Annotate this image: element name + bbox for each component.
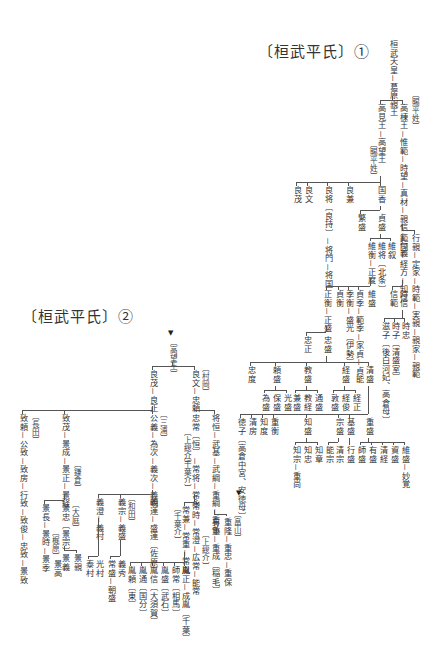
line — [226, 514, 227, 516]
line — [402, 230, 414, 231]
node-kiyomune: 清宗 — [334, 446, 343, 463]
node-yasumori: 保盛 — [271, 394, 280, 411]
line — [98, 518, 99, 556]
line — [76, 550, 77, 553]
line — [110, 556, 111, 559]
section-title-part2: 〔桓武平氏〕② — [22, 305, 134, 326]
node-tokitada: 時忠 — [400, 322, 409, 339]
line — [295, 390, 296, 393]
line — [98, 494, 152, 495]
node-kageyoshi: 景義 — [60, 554, 69, 571]
node-tanemori: 胤盛〔武石〕 — [159, 566, 168, 617]
node-arimori: 有盛 — [367, 446, 376, 463]
node-tanemasa: 胤正－成胤〔千葉〕 — [180, 566, 189, 643]
node-korenori: 維叙 — [386, 242, 395, 259]
node-tomoakira: 知章 — [313, 446, 322, 463]
node-motomori: 基盛 — [345, 418, 354, 435]
node-yoshihide: 義秀 — [116, 560, 125, 577]
node-moromori: 師盛 — [356, 446, 365, 463]
node-koremori-myokaku: 維盛－妙覚 — [400, 446, 409, 489]
line — [295, 442, 296, 445]
line — [264, 390, 265, 393]
line — [250, 362, 368, 363]
line — [264, 390, 286, 391]
node-yoshifumi-tadayori: 良文－忠頼 — [190, 370, 199, 413]
node-kagechika: 景親 — [72, 554, 81, 571]
node-tsunetoshi: 経俊 — [340, 394, 349, 411]
node-kanemori: 兼盛 — [291, 394, 300, 411]
node-yukinori-line: 行親－定家－時範－実親－親家－親範 — [410, 234, 419, 379]
line — [120, 540, 121, 556]
line — [393, 442, 394, 445]
node-suehira: 季衡－盛光〔伊勢〕 — [344, 290, 353, 367]
node-tokuko: 徳子〔高倉中宮、安徳母〕 — [236, 418, 245, 520]
node-yasumura: 泰村 — [84, 560, 93, 577]
node-tadayori-nagata: 致頼－公致－致房－行致－致俊－忠致－景致 — [18, 414, 27, 584]
node-aritsune: 有重－重成〔稲毛〕 — [210, 518, 219, 595]
line — [338, 438, 339, 442]
node-kunika: 国香 — [376, 186, 385, 203]
line — [382, 442, 383, 445]
node-tadamori: 忠盛 — [322, 336, 331, 353]
line — [317, 442, 318, 445]
line — [306, 332, 326, 333]
note-sei-heishi-b: 〔賜平姓〕 — [410, 90, 418, 130]
node-shigehira: 重衡 — [269, 418, 278, 435]
node-tsunemasa: 経正 — [351, 394, 360, 411]
node-yoshishige: 良茂 — [292, 186, 301, 203]
line — [370, 238, 371, 241]
line — [370, 238, 390, 239]
node-nobunori: 信範 — [388, 290, 397, 307]
note-wada: 〔和田〕 — [126, 494, 134, 526]
line — [184, 552, 185, 562]
note-chiba-1: 〔千葉介〕 — [182, 452, 190, 492]
node-morotsune: 師常〔相馬〕 — [170, 566, 179, 617]
node-yoshitsura: 義連－盛連〔佐原〕 — [148, 498, 157, 575]
node-michimori: 通盛 — [313, 394, 322, 411]
line — [194, 494, 195, 502]
line — [349, 438, 350, 445]
node-yoshimune-wada: 義宗－義盛 — [116, 498, 125, 541]
line — [88, 556, 98, 557]
line — [44, 500, 64, 501]
line — [380, 206, 381, 210]
node-shigeko: 滋子〔後白河妃、高倉母〕 — [380, 322, 389, 424]
node-tokiko: 時子〔清盛室〕 — [390, 322, 399, 382]
line — [402, 280, 403, 286]
node-yoshifumi: 良文 — [303, 186, 312, 203]
line — [328, 442, 338, 443]
line — [88, 556, 89, 559]
node-koretoki: 維将〔北条〕 — [376, 242, 385, 293]
node-tsunetoki: 常時－常澄－広常－能常 — [190, 502, 199, 596]
line — [317, 390, 318, 393]
node-tanemichi: 胤通〔国分〕 — [137, 566, 146, 617]
line — [110, 556, 120, 557]
node-kiyofusa: 清房 — [247, 418, 256, 435]
line — [355, 390, 356, 393]
note-miura: 〔三浦〕 — [158, 410, 166, 442]
node-tadanori: 忠度 — [246, 366, 255, 383]
node-tomonori: 知度 — [258, 418, 267, 435]
node-yoshimune: 能宗 — [324, 446, 333, 463]
line — [328, 442, 329, 445]
line — [295, 442, 317, 443]
line — [22, 410, 152, 411]
node-yorimori: 頼盛 — [271, 366, 280, 383]
node-tsunemori: 経盛 — [340, 366, 349, 383]
line — [214, 514, 226, 515]
node-tomomori: 知盛 — [302, 418, 311, 435]
node-takami-takamochi: 高見王－高望王 — [376, 104, 385, 164]
node-yoshikane: 良兼 — [344, 186, 353, 203]
note-nagata: 〔長田〕 — [30, 412, 38, 444]
line — [360, 442, 361, 445]
section-title-part1: 〔桓武平氏〕① — [258, 40, 370, 61]
node-norimori: 教盛 — [302, 366, 311, 383]
node-takamochi-ref: 〔高望王〕 — [168, 338, 176, 378]
line — [360, 210, 380, 211]
note-kajiwara: 〔梶原〕 — [50, 528, 58, 560]
note-sei-heishi-a: 〔賜平姓〕 — [368, 140, 376, 180]
line — [402, 310, 403, 318]
line — [371, 442, 372, 445]
node-kiyotsune: 清経 — [378, 446, 387, 463]
note-hatakeyama: 〔畠山〕 — [232, 510, 240, 542]
